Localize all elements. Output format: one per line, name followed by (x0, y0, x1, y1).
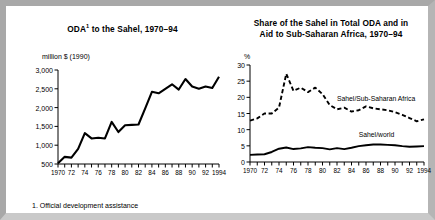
x-tick-label: 80 (122, 169, 129, 176)
series-line (58, 77, 219, 163)
y-axis-ticks-right (247, 65, 251, 162)
y-tick-label: 2,000 (35, 104, 53, 111)
x-tick-label: 88 (377, 167, 384, 174)
chart-title-right-line2: Aid to Sub-Saharan Africa, 1970–94 (228, 29, 434, 40)
x-tick-label: 78 (108, 169, 115, 176)
line-chart-right (228, 61, 434, 176)
x-tick-label: 82 (135, 169, 142, 176)
y-axis-unit-label-right: % (244, 53, 250, 60)
chart-title-right: Share of the Sahel in Total ODA and in A… (228, 18, 434, 40)
y-tick-label: 1,000 (35, 142, 53, 149)
x-tick-label: 76 (95, 169, 102, 176)
figure-canvas: ODA1 to the Sahel, 1970–94 million $ (19… (6, 6, 435, 220)
x-tick-label: 84 (148, 169, 155, 176)
y-tick-label: 30 (237, 62, 245, 69)
x-tick-label: 1994 (417, 167, 431, 174)
plot-area-right: 051015202530 197072747678808284868890921… (228, 61, 434, 176)
chart-panel-share-of-sahel: Share of the Sahel in Total ODA and in A… (228, 6, 434, 206)
x-tick-label: 92 (202, 169, 209, 176)
y-axis-unit-label-left: million $ (1990) (42, 53, 90, 60)
chart-title-left-main: ODA (67, 24, 86, 34)
x-tick-label: 1970 (243, 167, 257, 174)
x-tick-label: 1970 (51, 169, 65, 176)
x-tick-label: 82 (333, 167, 340, 174)
data-series-left (58, 77, 219, 163)
series-annotation: Sahel/world (359, 131, 395, 138)
x-tick-label: 78 (304, 167, 311, 174)
y-tick-label: 3,000 (35, 67, 53, 74)
chart-title-right-line1: Share of the Sahel in Total ODA and in (228, 18, 434, 29)
x-tick-label: 84 (348, 167, 355, 174)
x-axis-ticks-right (250, 162, 424, 166)
y-tick-label: 10 (237, 126, 245, 133)
x-tick-label: 74 (275, 167, 282, 174)
x-tick-label: 72 (261, 167, 268, 174)
y-tick-label: 1,500 (35, 123, 53, 130)
x-tick-label: 76 (290, 167, 297, 174)
chart-panel-oda-to-sahel: ODA1 to the Sahel, 1970–94 million $ (19… (20, 6, 225, 206)
x-tick-label: 92 (406, 167, 413, 174)
x-tick-label: 86 (162, 169, 169, 176)
x-axis-ticks-left (58, 164, 219, 168)
figure-frame: ODA1 to the Sahel, 1970–94 million $ (19… (0, 0, 435, 220)
y-tick-label: 25 (237, 78, 245, 85)
y-tick-label: 2,500 (35, 85, 53, 92)
x-tick-label: 90 (391, 167, 398, 174)
y-tick-label: 20 (237, 94, 245, 101)
chart-title-left-rest: to the Sahel, 1970–94 (89, 24, 177, 34)
x-tick-label: 74 (81, 169, 88, 176)
x-tick-label: 72 (68, 169, 75, 176)
y-axis-ticks-left (55, 70, 59, 164)
chart-title-left: ODA1 to the Sahel, 1970–94 (20, 24, 225, 35)
x-tick-label: 90 (189, 169, 196, 176)
y-tick-label: 5 (241, 142, 245, 149)
x-tick-label: 88 (175, 169, 182, 176)
x-tick-label: 86 (362, 167, 369, 174)
series-annotation: Sahel/Sub-Saharan Africa (337, 95, 415, 102)
x-tick-label: 80 (319, 167, 326, 174)
series-line (250, 145, 424, 155)
y-tick-label: 0 (241, 159, 245, 166)
y-tick-label: 500 (41, 161, 53, 168)
figure-footnote: 1. Official development assistance (32, 202, 138, 209)
axis-lines-left (58, 70, 219, 164)
y-tick-label: 15 (237, 110, 245, 117)
line-chart-left (20, 66, 225, 176)
plot-area-left: 5001,0001,5002,0002,5003,000 19707274767… (20, 66, 225, 176)
data-series-right (250, 74, 424, 155)
x-tick-label: 1994 (212, 169, 226, 176)
